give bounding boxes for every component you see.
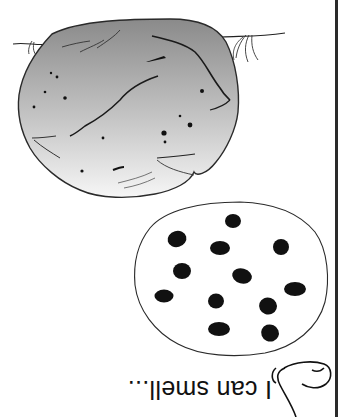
caption-text: I can smell...	[100, 374, 272, 406]
nose-icon	[272, 362, 330, 417]
potato-icon	[13, 19, 285, 197]
worksheet-page: I can smell...	[0, 0, 338, 417]
worksheet-illustrations	[0, 0, 338, 417]
chocolate-chip-cookie-icon	[135, 202, 328, 356]
